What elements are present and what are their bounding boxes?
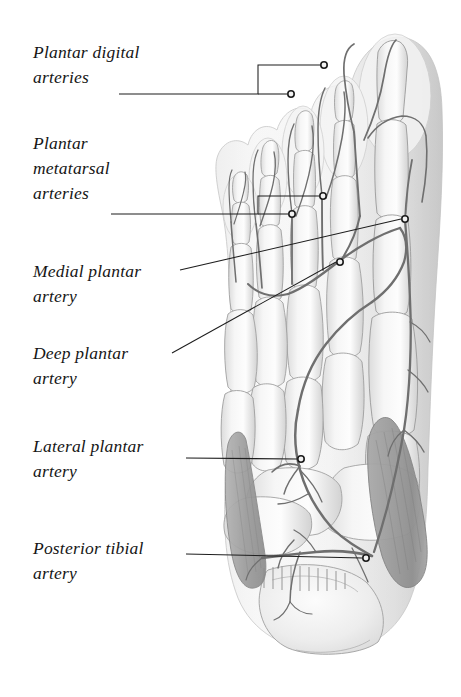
leader-endpoint-lateral-plantar <box>298 456 304 462</box>
leader-endpoint-posterior-tibial <box>363 555 369 561</box>
leader-lines <box>0 0 461 697</box>
leader-deep-plantar-artery <box>172 259 343 353</box>
leader-posterior-tibial-artery <box>186 554 369 561</box>
anatomical-figure-plantar-arteries: Plantar digital arteries Plantar metatar… <box>0 0 461 697</box>
leader-lateral-plantar-artery <box>186 456 304 462</box>
leader-plantar-digital-arteries <box>119 62 327 97</box>
leader-endpoint-deep-plantar <box>337 259 343 265</box>
leader-medial-plantar-artery <box>180 216 408 270</box>
leader-endpoint-medial-plantar <box>402 216 408 222</box>
leader-plantar-metatarsal-arteries <box>111 193 326 217</box>
leader-endpoint-digital-second-toe <box>288 91 294 97</box>
leader-endpoint-metatarsal-upper <box>320 193 326 199</box>
leader-endpoint-digital-hallux <box>321 62 327 68</box>
leader-endpoint-metatarsal-lower <box>289 211 295 217</box>
